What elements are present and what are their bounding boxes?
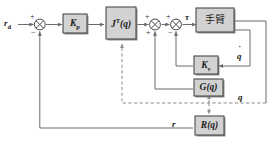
sum2-symbol [150, 19, 161, 30]
label-reference-signal: rd [4, 19, 11, 30]
label-block-arm: 手臂 [196, 15, 234, 25]
wire-gq-to-sum2 [155, 32, 193, 90]
sign-sum2-plus-bottom: + [146, 29, 151, 37]
sign-sum3-minus: − [168, 29, 173, 37]
sign-sum1-plus: + [30, 13, 35, 21]
label-block-gq: G(q) [194, 83, 223, 93]
sign-sum1-minus: − [31, 29, 36, 37]
label-measured-position-signal: r [172, 120, 176, 129]
label-joint-velocity-signal: ˙q [237, 52, 242, 61]
sum1-symbol [34, 19, 45, 30]
label-block-kv: Kv [194, 61, 218, 72]
label-block-jacobian-transpose: JT(q) [106, 18, 136, 30]
label-joint-position-signal: q [238, 93, 243, 102]
block-diagram-canvas: rd + − Kp JT(q) + + + − τ 手臂 ˙q Kv G(q) … [0, 0, 275, 146]
sign-sum3-plus: + [166, 13, 171, 21]
label-torque-signal: τ [185, 13, 189, 22]
wire-rq-to-sum1 [40, 32, 193, 129]
sign-sum2-plus-left: + [145, 13, 150, 21]
wire-kv-to-sum3 [176, 32, 193, 67]
wire-arm-to-kv [219, 30, 250, 66]
label-block-kp: Kp [63, 19, 87, 30]
label-block-rq: R(q) [195, 121, 224, 131]
